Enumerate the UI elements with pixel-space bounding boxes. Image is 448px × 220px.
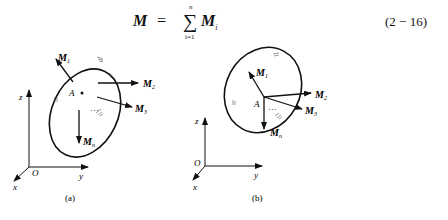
- body-ellipse-a: [36, 57, 135, 168]
- point-a-dot: [81, 92, 84, 95]
- label-m3-b: M3: [304, 105, 317, 117]
- dots-b: …: [268, 102, 277, 112]
- label-m1-a: M1: [57, 52, 70, 64]
- label-z-b: z: [194, 116, 199, 126]
- hatch-mark: [233, 100, 235, 105]
- label-origin-b: O: [194, 158, 201, 168]
- label-m2-b: M2: [314, 89, 327, 101]
- figures: M1 M2 M3 Mn A … z y x O (a) M1 M2 M3 Mn …: [0, 0, 448, 220]
- label-point-a: A: [68, 88, 75, 98]
- label-z-a: z: [18, 92, 23, 102]
- vector-m3-a: [97, 97, 132, 107]
- hatch-mark: [275, 113, 282, 119]
- label-y-b: y: [253, 170, 258, 180]
- hatch-mark: [273, 53, 279, 56]
- hatch-mark: [97, 57, 103, 62]
- dots-a: …: [90, 103, 99, 113]
- x-axis-b: [193, 166, 205, 180]
- label-x-b: x: [192, 182, 197, 192]
- body-ellipse-b: [210, 34, 317, 146]
- label-mn-b: Mn: [269, 127, 282, 139]
- label-origin-a: O: [32, 168, 39, 178]
- label-m1-b: M1: [255, 67, 268, 79]
- label-point-b: A: [253, 99, 260, 109]
- figure-a: M1 M2 M3 Mn A … z y x O (a): [12, 52, 155, 203]
- vector-m2-b: [264, 93, 311, 97]
- label-x-a: x: [12, 182, 17, 192]
- x-axis-a: [14, 167, 29, 181]
- caption-b: (b): [252, 193, 263, 203]
- caption-a: (a): [65, 193, 75, 203]
- label-m2-a: M2: [142, 78, 155, 90]
- label-mn-a: Mn: [82, 136, 95, 148]
- figure-b: M1 M2 M3 Mn A … z y x O (b): [192, 34, 327, 203]
- label-y-a: y: [78, 171, 83, 181]
- label-m3-a: M3: [134, 103, 147, 115]
